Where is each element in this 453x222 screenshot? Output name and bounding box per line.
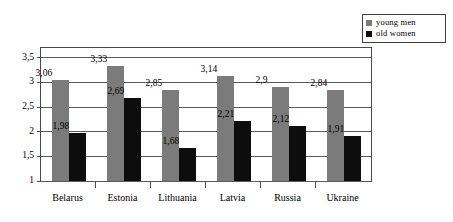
bar-value-label: 2,85	[146, 78, 163, 88]
bar-group: 2,851,68	[151, 48, 206, 181]
y-axis-tick-label: 2,5	[2, 101, 34, 111]
bar-value-label: 2,12	[273, 114, 290, 124]
bar-old-women	[69, 133, 86, 181]
bar-value-label: 2,21	[218, 109, 235, 119]
x-axis: BelarusEstoniaLithuaniaLatviaRussiaUkrai…	[40, 182, 372, 216]
legend-label-young-men: young men	[376, 18, 416, 27]
y-axis-tick-label: 1	[2, 175, 34, 185]
bar-old-women	[289, 126, 306, 181]
bar-value-label: 1,91	[328, 124, 345, 134]
bar-young-men	[217, 76, 234, 181]
y-axis-tick-label: 2	[2, 126, 34, 136]
x-axis-tick	[150, 182, 151, 188]
bar-group: 3,332,69	[96, 48, 151, 181]
bar-chart: young men old women 11,522,533,5 3,061,9…	[0, 0, 453, 222]
bar-value-label: 2,84	[311, 78, 328, 88]
chart-legend: young men old women	[362, 14, 446, 43]
y-axis-tick-label: 3	[2, 76, 34, 86]
x-axis-tick	[260, 182, 261, 188]
bar-group: 3,061,98	[41, 48, 96, 181]
bar-young-men	[327, 90, 344, 181]
legend-label-old-women: old women	[376, 29, 416, 38]
y-axis-tick-label: 3,5	[2, 52, 34, 62]
bar-group: 2,92,12	[261, 48, 316, 181]
bar-value-label: 1,68	[163, 136, 180, 146]
bar-value-label: 3,14	[201, 64, 218, 74]
bar-value-label: 3,06	[36, 68, 53, 78]
plot-area: 3,061,983,332,692,851,683,142,212,92,122…	[40, 47, 372, 182]
legend-square-black-icon	[366, 31, 372, 37]
bar-young-men	[272, 87, 289, 181]
bar-old-women	[344, 136, 361, 181]
x-axis-category-label: Belarus	[52, 192, 83, 203]
y-axis-tick-label: 1,5	[2, 150, 34, 160]
legend-square-gray-icon	[366, 20, 372, 26]
bar-old-women	[179, 148, 196, 181]
x-axis-category-label: Ukraine	[326, 192, 358, 203]
x-axis-category-label: Lithuania	[158, 192, 196, 203]
bar-young-men	[107, 66, 124, 181]
x-axis-tick	[95, 182, 96, 188]
x-axis-category-label: Russia	[274, 192, 301, 203]
bar-old-women	[234, 121, 251, 181]
x-axis-category-label: Latvia	[220, 192, 246, 203]
bar-old-women	[124, 98, 141, 181]
legend-item-old-women: old women	[366, 28, 442, 39]
bar-group: 2,841,91	[316, 48, 371, 181]
bar-group: 3,142,21	[206, 48, 261, 181]
x-axis-tick	[315, 182, 316, 188]
bar-value-label: 2,9	[256, 75, 268, 85]
bar-value-label: 1,98	[53, 121, 70, 131]
bar-value-label: 3,33	[91, 54, 108, 64]
x-axis-tick	[205, 182, 206, 188]
x-axis-category-label: Estonia	[108, 192, 138, 203]
legend-item-young-men: young men	[366, 17, 442, 28]
bar-value-label: 2,69	[108, 86, 125, 96]
